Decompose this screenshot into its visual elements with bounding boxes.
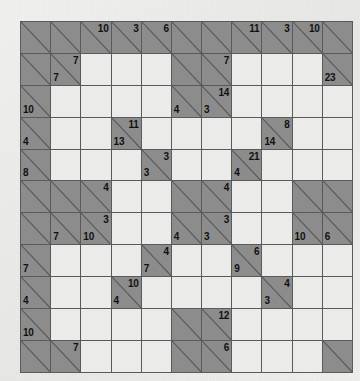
entry-cell-r4c10[interactable] [292,117,322,149]
entry-cell-r3c11[interactable] [322,85,352,117]
clue-cell-across-r7c6: 4 [171,213,201,245]
entry-cell-r2c9[interactable] [262,53,292,85]
entry-cell-r11c10[interactable] [292,340,322,372]
across-clue-value: 7 [53,232,58,242]
entry-cell-r5c11[interactable] [322,149,352,181]
blocked-cell-r10c6 [171,309,201,341]
down-clue-value: 21 [249,152,260,162]
entry-cell-r4c6[interactable] [171,117,201,149]
across-clue-value: 9 [234,264,239,274]
blocked-cell-r1c11 [322,22,352,54]
entry-cell-r9c10[interactable] [292,277,322,309]
kakuro-grid-body: 1036113107772310414341113814833214447310… [21,22,353,373]
entry-cell-r9c2[interactable] [51,277,81,309]
kakuro-grid[interactable]: 1036113107772310414341113814833214447310… [20,21,353,373]
blocked-cell-r6c6 [171,181,201,213]
entry-cell-r2c8[interactable] [232,53,262,85]
entry-cell-r5c2[interactable] [51,149,81,181]
entry-cell-r3c9[interactable] [262,85,292,117]
entry-cell-r10c5[interactable] [141,309,171,341]
entry-cell-r10c4[interactable] [111,309,141,341]
entry-cell-r11c5[interactable] [141,340,171,372]
entry-cell-r8c7[interactable] [202,245,232,277]
clue-cell-down-r1c4: 3 [111,22,141,54]
entry-cell-r4c2[interactable] [51,117,81,149]
entry-cell-r4c7[interactable] [202,117,232,149]
blocked-cell-r6c1 [21,181,51,213]
entry-cell-r11c3[interactable] [81,340,111,372]
entry-cell-r10c8[interactable] [232,309,262,341]
entry-cell-r2c10[interactable] [292,53,322,85]
across-clue-value: 10 [295,232,306,242]
entry-cell-r8c2[interactable] [51,245,81,277]
entry-cell-r8c3[interactable] [81,245,111,277]
clue-cell-both-r9c9: 43 [262,277,292,309]
entry-cell-r3c8[interactable] [232,85,262,117]
entry-cell-r3c5[interactable] [141,85,171,117]
across-clue-value: 4 [23,137,28,147]
entry-cell-r2c5[interactable] [141,53,171,85]
entry-cell-r4c3[interactable] [81,117,111,149]
down-clue-value: 4 [284,279,289,289]
entry-cell-r8c9[interactable] [262,245,292,277]
entry-cell-r2c3[interactable] [81,53,111,85]
down-clue-value: 3 [224,215,229,225]
entry-cell-r5c6[interactable] [171,149,201,181]
entry-cell-r8c4[interactable] [111,245,141,277]
entry-cell-r6c8[interactable] [232,181,262,213]
entry-cell-r4c11[interactable] [322,117,352,149]
clue-cell-across-r5c1: 8 [21,149,51,181]
entry-cell-r4c8[interactable] [232,117,262,149]
blocked-cell-r1c1 [21,22,51,54]
entry-cell-r7c9[interactable] [262,213,292,245]
entry-cell-r5c7[interactable] [202,149,232,181]
entry-cell-r8c10[interactable] [292,245,322,277]
entry-cell-r3c10[interactable] [292,85,322,117]
entry-cell-r11c4[interactable] [111,340,141,372]
entry-cell-r3c4[interactable] [111,85,141,117]
entry-cell-r5c4[interactable] [111,149,141,181]
entry-cell-r10c9[interactable] [262,309,292,341]
diagonal-divider-icon [172,54,201,85]
clue-cell-both-r8c5: 47 [141,245,171,277]
down-clue-value: 6 [224,343,229,353]
entry-cell-r9c6[interactable] [171,277,201,309]
entry-cell-r7c8[interactable] [232,213,262,245]
kakuro-row: 76 [21,340,353,372]
entry-cell-r9c3[interactable] [81,277,111,309]
entry-cell-r5c9[interactable] [262,149,292,181]
blocked-cell-r11c1 [21,340,51,372]
entry-cell-r3c2[interactable] [51,85,81,117]
entry-cell-r5c10[interactable] [292,149,322,181]
entry-cell-r6c5[interactable] [141,181,171,213]
entry-cell-r7c5[interactable] [141,213,171,245]
clue-cell-both-r3c7: 143 [202,85,232,117]
down-clue-value: 7 [73,56,78,66]
entry-cell-r10c11[interactable] [322,309,352,341]
kakuro-row: 77723 [21,53,353,85]
entry-cell-r2c4[interactable] [111,53,141,85]
entry-cell-r6c4[interactable] [111,181,141,213]
entry-cell-r9c11[interactable] [322,277,352,309]
entry-cell-r9c8[interactable] [232,277,262,309]
entry-cell-r6c9[interactable] [262,181,292,213]
across-clue-value: 3 [144,168,149,178]
entry-cell-r10c2[interactable] [51,309,81,341]
entry-cell-r11c9[interactable] [262,340,292,372]
entry-cell-r9c7[interactable] [202,277,232,309]
entry-cell-r10c3[interactable] [81,309,111,341]
kakuro-row: 1012 [21,309,353,341]
entry-cell-r8c11[interactable] [322,245,352,277]
across-clue-value: 3 [204,232,209,242]
across-clue-value: 10 [23,328,34,338]
entry-cell-r10c10[interactable] [292,309,322,341]
entry-cell-r3c3[interactable] [81,85,111,117]
entry-cell-r8c6[interactable] [171,245,201,277]
entry-cell-r9c5[interactable] [141,277,171,309]
entry-cell-r11c8[interactable] [232,340,262,372]
clue-cell-across-r3c1: 10 [21,85,51,117]
entry-cell-r5c3[interactable] [81,149,111,181]
entry-cell-r7c4[interactable] [111,213,141,245]
across-clue-value: 4 [23,296,28,306]
entry-cell-r4c5[interactable] [141,117,171,149]
